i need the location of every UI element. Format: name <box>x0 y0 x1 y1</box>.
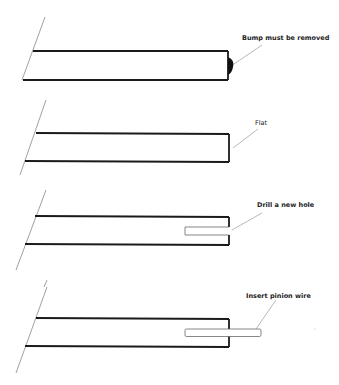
rod-top-edge <box>36 318 229 319</box>
step-3-drill: Drill a new hole <box>16 190 315 287</box>
leader-line <box>234 45 262 64</box>
break-line <box>16 287 47 373</box>
rod-top-edge <box>36 133 229 134</box>
break-line <box>16 190 46 270</box>
rod-bottom-edge <box>25 161 229 162</box>
rod-top-edge <box>35 216 229 217</box>
break-line <box>22 17 45 80</box>
bump-shape <box>228 57 233 75</box>
step-label: Drill a new hole <box>257 201 315 209</box>
pinion-process-diagram: Bump must be removed Flat Drill a new ho… <box>0 0 339 385</box>
leader-line <box>256 300 276 329</box>
rod-bottom-edge <box>25 346 229 347</box>
step-1-bump: Bump must be removed <box>22 17 330 80</box>
step-label: Flat <box>255 119 268 127</box>
drilled-hole <box>185 227 229 235</box>
stray-dot <box>315 329 316 330</box>
leader-line <box>232 213 262 230</box>
step-label: Bump must be removed <box>242 34 330 42</box>
break-line <box>20 100 46 175</box>
break-line-lower <box>44 280 47 287</box>
pinion-wire <box>185 329 261 337</box>
step-2-flat: Flat <box>20 100 268 175</box>
step-label: Insert pinion wire <box>246 292 311 300</box>
step-4-insert-wire: Insert pinion wire <box>16 287 316 373</box>
rod-bottom-edge <box>25 244 229 245</box>
leader-line <box>233 129 258 148</box>
